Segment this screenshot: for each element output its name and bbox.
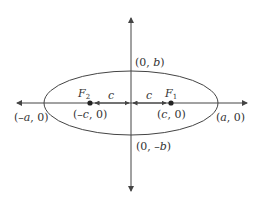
focus-2-label: F2 [77, 87, 90, 101]
left-vertex-label: (–a, 0) [14, 111, 49, 124]
focus-2-point [87, 100, 92, 105]
focus-1-coordinate-label: (c, 0) [157, 108, 186, 121]
ellipse-diagram: F2 F1 c c (0, b) (0, –b) (–a, 0) (a, 0) … [0, 0, 258, 201]
bottom-vertex-label: (0, –b) [136, 140, 171, 153]
focus-2-coordinate-label: (–c, 0) [73, 108, 107, 121]
top-vertex-label: (0, b) [135, 56, 165, 69]
right-vertex-label: (a, 0) [216, 111, 245, 124]
distance-label-left: c [108, 89, 114, 102]
distance-label-right: c [146, 89, 152, 102]
focus-1-point [168, 100, 173, 105]
focus-1-label: F1 [164, 87, 177, 101]
